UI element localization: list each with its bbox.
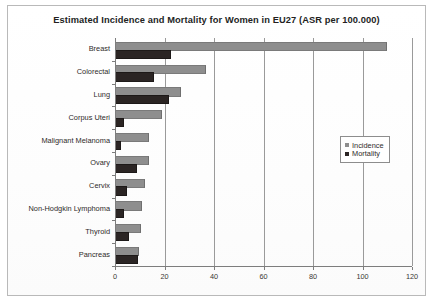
- chart-category-row: Corpus Uteri: [115, 106, 412, 129]
- category-label: Cervix: [89, 182, 110, 189]
- bar-mortality: [116, 186, 127, 195]
- x-tick-label: 60: [259, 272, 267, 281]
- x-tick-mark: [412, 267, 413, 270]
- legend-entry: Incidence: [345, 142, 384, 149]
- x-tick-mark: [165, 267, 166, 270]
- y-tick-mark: [112, 266, 115, 267]
- chart-frame: Estimated Incidence and Mortality for Wo…: [7, 5, 426, 296]
- bar-mortality: [116, 232, 129, 241]
- x-tick-mark: [313, 267, 314, 270]
- bar-mortality: [116, 255, 138, 264]
- chart-category-row: Colorectal: [115, 61, 412, 84]
- x-tick-mark: [363, 267, 364, 270]
- legend-swatch-incidence: [345, 143, 349, 147]
- category-label: Ovary: [90, 159, 110, 166]
- plot-area: 020406080100120 BreastColorectalLungCorp…: [115, 38, 412, 267]
- category-label: Colorectal: [77, 68, 110, 75]
- bar-mortality: [116, 50, 171, 59]
- x-tick-mark: [264, 267, 265, 270]
- x-tick-label: 20: [160, 272, 168, 281]
- bar-incidence: [116, 133, 149, 142]
- x-tick-label: 100: [356, 272, 368, 281]
- chart-category-row: Non-Hodgkin Lymphoma: [115, 198, 412, 221]
- chart-category-row: Cervix: [115, 175, 412, 198]
- legend-swatch-mortality: [345, 152, 349, 156]
- bar-mortality: [116, 209, 124, 218]
- bar-mortality: [116, 118, 124, 127]
- bar-mortality: [116, 95, 169, 104]
- category-label: Lung: [94, 91, 110, 98]
- bar-mortality: [116, 164, 137, 173]
- chart-legend: IncidenceMortality: [340, 136, 390, 163]
- chart-title: Estimated Incidence and Mortality for Wo…: [8, 15, 425, 25]
- category-label: Malignant Melanoma: [41, 137, 110, 144]
- chart-category-row: Breast: [115, 38, 412, 61]
- x-tick-label: 120: [406, 272, 418, 281]
- x-tick-label: 0: [113, 272, 117, 281]
- legend-label: Incidence: [352, 142, 384, 149]
- category-label: Non-Hodgkin Lymphoma: [29, 205, 110, 212]
- category-label: Thyroid: [85, 228, 110, 235]
- legend-entry: Mortality: [345, 150, 384, 157]
- category-label: Breast: [89, 45, 110, 52]
- x-tick-label: 40: [210, 272, 218, 281]
- gridline: [412, 38, 413, 266]
- category-label: Corpus Uteri: [69, 114, 110, 121]
- legend-label: Mortality: [352, 150, 380, 157]
- chart-category-row: Thyroid: [115, 220, 412, 243]
- chart-category-row: Lung: [115, 84, 412, 107]
- bar-mortality: [116, 141, 121, 150]
- x-tick-mark: [214, 267, 215, 270]
- x-tick-mark: [115, 267, 116, 270]
- chart-category-row: Pancreas: [115, 243, 412, 266]
- x-tick-label: 80: [309, 272, 317, 281]
- category-label: Pancreas: [79, 251, 110, 258]
- bar-mortality: [116, 72, 154, 81]
